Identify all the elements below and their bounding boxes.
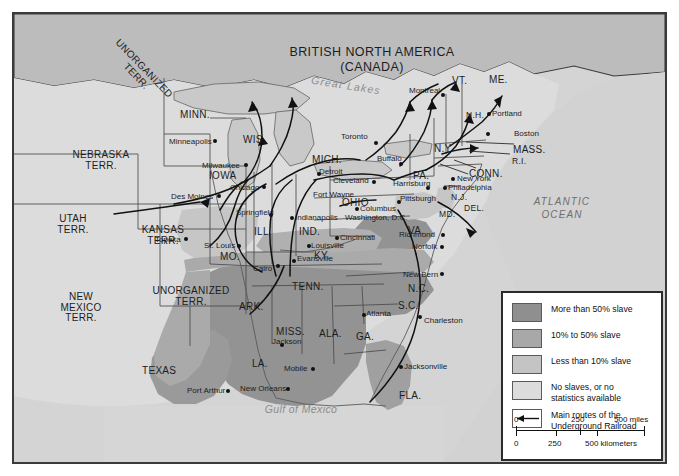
city-dot-cleveland <box>372 180 376 184</box>
city-label-portland: Portland <box>492 110 522 118</box>
city-label-port-arthur: Port Arthur <box>187 387 225 395</box>
legend-row-more-than-50: More than 50% slave <box>512 303 633 322</box>
city-label-washington-dc: Washington, D.C. <box>345 214 407 222</box>
state-label-mich: MICH. <box>312 155 342 166</box>
city-dot-cairo <box>276 264 280 268</box>
city-dot-mobile <box>311 367 315 371</box>
legend-label-less-than-10: Less than 10% slave <box>551 355 631 367</box>
state-label-nc: N.C. <box>408 284 429 295</box>
city-dot-new-bern <box>440 272 444 276</box>
gulf-of-mexico-label: Gulf of Mexico <box>236 404 366 415</box>
city-label-boston: Boston <box>514 130 539 138</box>
map-scale-bar: 0 250 500 miles 0 250 500 kilometers <box>513 414 655 454</box>
scale-km-500: 500 kilometers <box>585 439 637 448</box>
city-dot-indianapolis <box>290 216 294 220</box>
city-dot-new-york <box>451 177 455 181</box>
city-dot-minneapolis <box>213 139 217 143</box>
state-label-del: DEL. <box>464 204 484 213</box>
state-label-ga: GA. <box>356 332 374 343</box>
city-label-jacksonville: Jacksonville <box>404 363 447 371</box>
city-dot-evansville <box>292 259 296 263</box>
city-dot-topeka <box>184 237 188 241</box>
state-label-ind: IND. <box>299 227 320 238</box>
legend-row-10-to-50: 10% to 50% slave <box>512 329 621 348</box>
state-label-me: ME. <box>489 75 508 86</box>
scale-miles-250: 250 <box>571 415 584 424</box>
state-label-ri: R.I. <box>512 157 526 166</box>
state-label-md: MD. <box>439 210 455 219</box>
city-dot-norfolk <box>440 245 444 249</box>
state-label-vt: VT. <box>452 76 467 87</box>
scale-tick-km-250 <box>556 430 557 436</box>
scale-tick-mid <box>580 428 581 435</box>
city-dot-portland <box>487 112 491 116</box>
state-label-tenn: TENN. <box>292 282 324 293</box>
city-label-philadelphia: Philadelphia <box>448 184 492 192</box>
city-label-richmond: Richmond <box>399 231 435 239</box>
state-label-wis: WIS. <box>243 135 266 146</box>
map-page: BRITISH NORTH AMERICA (CANADA) Great Lak… <box>0 0 679 476</box>
city-label-des-moines: Des Moines <box>171 193 213 201</box>
state-label-fla: FLA. <box>399 391 421 402</box>
state-label-mass: MASS. <box>513 145 546 156</box>
legend-label-10-to-50: 10% to 50% slave <box>551 329 621 341</box>
legend-swatch-less-than-10 <box>512 355 542 374</box>
city-dot-toronto <box>374 141 378 145</box>
city-dot-philadelphia <box>443 186 447 190</box>
legend-row-no-slaves: No slaves, or no statistics available <box>512 381 621 404</box>
state-label-sc: S.C. <box>398 301 419 312</box>
city-dot-montreal <box>441 93 445 97</box>
city-label-cleveland: Cleveland <box>333 177 369 185</box>
city-dot-charleston <box>418 315 422 319</box>
city-label-harrisburg: Harrisburg <box>393 180 430 188</box>
state-label-nh: N.H. <box>466 111 484 120</box>
scale-miles-500: 500 miles <box>614 415 648 424</box>
city-dot-st-louis <box>237 244 241 248</box>
scale-km-250: 250 <box>548 439 561 448</box>
city-dot-boston <box>486 132 490 136</box>
city-label-springfield: Springfield <box>236 209 274 217</box>
territory-nebraska: NEBRASKA TERR. <box>56 150 146 171</box>
state-label-mo: MO. <box>220 252 240 263</box>
city-label-louisville: Louisville <box>311 242 344 250</box>
state-label-iowa: IOWA <box>209 171 237 182</box>
city-label-cairo: Cairo <box>253 265 272 273</box>
state-label-ny: N.Y. <box>434 144 453 155</box>
atlantic-ocean-label-line1: ATLANTIC <box>512 197 612 208</box>
state-label-ala: ALA. <box>319 329 342 340</box>
city-label-mobile: Mobile <box>284 365 308 373</box>
legend-row-less-than-10: Less than 10% slave <box>512 355 631 374</box>
territory-utah: UTAH TERR. <box>38 214 108 235</box>
atlantic-ocean-label-line2: OCEAN <box>512 210 612 221</box>
city-label-toronto: Toronto <box>341 133 368 141</box>
scale-tick-km-500 <box>597 430 598 436</box>
city-dot-jacksonville <box>399 365 403 369</box>
map-frame: BRITISH NORTH AMERICA (CANADA) Great Lak… <box>12 12 667 464</box>
scale-km-0: 0 <box>514 439 518 448</box>
scale-tick-0 <box>516 426 517 436</box>
map-canvas: BRITISH NORTH AMERICA (CANADA) Great Lak… <box>14 14 665 462</box>
city-label-atlanta: Atlanta <box>366 310 391 318</box>
city-label-norfolk: Norfolk <box>412 243 437 251</box>
city-label-chicago: Chicago <box>230 184 259 192</box>
city-label-st-louis: St. Louis <box>204 242 235 250</box>
state-label-la: LA. <box>252 359 268 370</box>
city-dot-cincinnati <box>335 236 339 240</box>
city-label-fort-wayne: Fort Wayne <box>313 191 354 199</box>
city-label-buffalo: Buffalo <box>377 155 402 163</box>
state-label-nj: N.J. <box>451 193 467 202</box>
city-dot-chicago <box>262 185 266 189</box>
territory-unorganized-south: UNORGANIZED TERR. <box>136 286 246 307</box>
state-label-ark: ARK. <box>239 302 264 313</box>
city-label-milwaukee: Milwaukee <box>202 162 240 170</box>
legend-label-more-than-50: More than 50% slave <box>551 303 633 315</box>
city-label-montreal: Montreal <box>409 87 440 95</box>
scale-miles-0: 0 <box>514 415 518 424</box>
map-title-line2: (CANADA) <box>282 61 462 74</box>
scale-tick-end <box>644 426 645 436</box>
legend-swatch-no-slaves <box>512 381 542 400</box>
city-label-cincinnati: Cincinnati <box>340 234 375 242</box>
map-legend: More than 50% slave 10% to 50% slave Les… <box>501 291 663 461</box>
city-label-minneapolis: Minneapolis <box>169 138 212 146</box>
territory-new-mexico: NEW MEXICO TERR. <box>42 292 120 324</box>
